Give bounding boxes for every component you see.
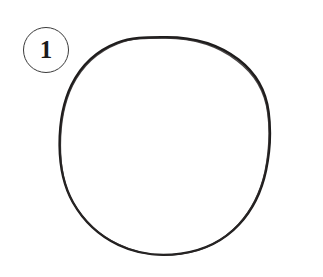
step-number-label: 1 bbox=[40, 37, 53, 62]
circle-outline-icon bbox=[58, 33, 273, 258]
hand-drawn-circle-figure bbox=[58, 33, 273, 258]
drawing-canvas: 1 bbox=[0, 0, 323, 277]
